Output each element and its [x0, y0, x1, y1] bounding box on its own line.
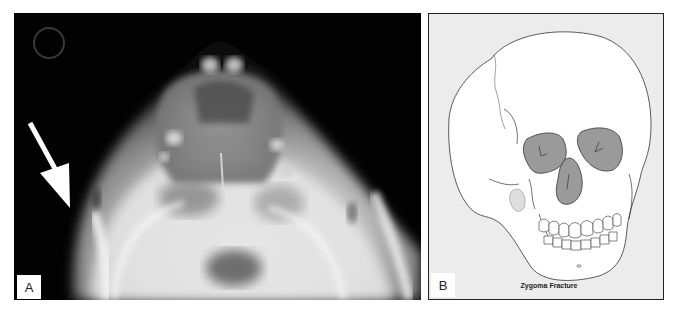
- panel-label-a: A: [17, 275, 41, 299]
- illustration-panel-b: Zygoma Fracture B: [428, 13, 664, 300]
- figure-caption: Zygoma Fracture: [429, 282, 663, 289]
- skull-illustration: [429, 14, 664, 300]
- panel-label-b: B: [431, 273, 455, 297]
- xray-panel-a: A: [14, 13, 421, 300]
- xray-image: [14, 13, 421, 300]
